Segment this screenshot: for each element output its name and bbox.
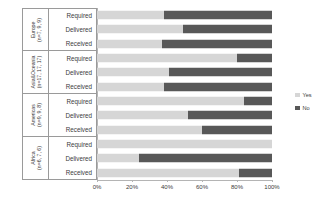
- bar-segment-no: [164, 11, 273, 20]
- bar-segment-yes: [97, 111, 188, 120]
- bar-segment-no: [237, 54, 272, 63]
- bar-row: [97, 137, 272, 151]
- bar-segment-no: [169, 68, 272, 77]
- bar-segment-no: [183, 25, 272, 34]
- group-label: Asia&Oceania: [29, 56, 35, 89]
- group-sample-size: (n=9, 9, 8): [36, 103, 42, 127]
- group-label: Africa: [29, 146, 35, 170]
- bar-segment-yes: [97, 125, 202, 134]
- x-axis-tick-label: 40%: [161, 184, 173, 190]
- stacked-bar: [97, 125, 272, 134]
- bar-row: [97, 80, 272, 94]
- bar-row: [97, 37, 272, 51]
- x-axis-tick-label: 0%: [93, 184, 102, 190]
- bar-segment-no: [139, 154, 272, 163]
- bar-segment-yes: [97, 97, 244, 106]
- stacked-bar: [97, 168, 272, 177]
- row-label-delivered: Delivered: [49, 65, 96, 79]
- category-group-americas: Americas(n=9, 9, 8)RequiredDeliveredRece…: [22, 94, 97, 137]
- bar-segment-yes: [97, 54, 237, 63]
- x-axis-tick: [132, 180, 133, 182]
- bar-group: [97, 51, 272, 94]
- legend-item-no[interactable]: No: [295, 105, 312, 111]
- group-label: Europe: [29, 18, 35, 42]
- x-axis-tick-label: 100%: [264, 184, 279, 190]
- bar-row: [97, 151, 272, 165]
- row-label-required: Required: [49, 94, 96, 108]
- bar-segment-yes: [97, 168, 239, 177]
- group-row-labels: RequiredDeliveredReceived: [49, 9, 97, 50]
- row-label-delivered: Delivered: [49, 23, 96, 37]
- row-label-received: Received: [49, 122, 96, 136]
- bar-segment-yes: [97, 154, 139, 163]
- group-row-labels: RequiredDeliveredReceived: [49, 137, 97, 179]
- group-name-cell: Asia&Oceania(n=17, 17, 17): [22, 51, 49, 93]
- x-axis-tick: [167, 180, 168, 182]
- bar-row: [97, 123, 272, 137]
- x-axis-tick: [97, 180, 98, 182]
- bar-row: [97, 8, 272, 22]
- x-axis-tick: [237, 180, 238, 182]
- stacked-bar: [97, 111, 272, 120]
- legend-label: Yes: [303, 92, 312, 98]
- x-axis-tick: [202, 180, 203, 182]
- bar-row: [97, 51, 272, 65]
- stacked-bar: [97, 97, 272, 106]
- stacked-bar: [97, 25, 272, 34]
- bar-row: [97, 108, 272, 122]
- bar-group: [97, 94, 272, 137]
- bar-group: [97, 137, 272, 180]
- stacked-bar: [97, 140, 272, 149]
- bar-segment-no: [239, 168, 272, 177]
- x-axis-tick-label: 60%: [196, 184, 208, 190]
- legend-item-yes[interactable]: Yes: [295, 92, 312, 98]
- group-name-cell: Europe(n=7, 9, 9): [22, 9, 49, 50]
- bar-segment-no: [164, 82, 273, 91]
- row-label-received: Received: [49, 165, 96, 179]
- group-row-labels: RequiredDeliveredReceived: [49, 51, 97, 93]
- bar-group: [97, 8, 272, 51]
- legend-swatch-icon: [295, 106, 300, 111]
- category-group-africa: Africa(n=6, 7, 6)RequiredDeliveredReceiv…: [22, 137, 97, 180]
- stacked-bar-chart: Europe(n=7, 9, 9)RequiredDeliveredReceiv…: [0, 0, 327, 214]
- bar-segment-yes: [97, 82, 164, 91]
- bar-segment-yes: [97, 68, 169, 77]
- row-label-required: Required: [49, 137, 96, 151]
- row-label-delivered: Delivered: [49, 108, 96, 122]
- bar-segment-yes: [97, 39, 162, 48]
- x-axis: 0%20%40%60%80%100%: [97, 180, 272, 196]
- group-sample-size: (n=17, 17, 17): [36, 56, 42, 89]
- row-label-required: Required: [49, 51, 96, 65]
- stacked-bar: [97, 39, 272, 48]
- bar-segment-yes: [97, 25, 183, 34]
- row-label-received: Received: [49, 79, 96, 93]
- x-axis-tick-label: 20%: [126, 184, 138, 190]
- bar-segment-yes: [97, 11, 164, 20]
- x-axis-tick-label: 80%: [231, 184, 243, 190]
- bar-row: [97, 94, 272, 108]
- group-sample-size: (n=7, 9, 9): [36, 18, 42, 42]
- stacked-bar: [97, 154, 272, 163]
- bar-segment-yes: [97, 140, 272, 149]
- bar-row: [97, 22, 272, 36]
- legend-swatch-icon: [295, 93, 300, 98]
- stacked-bar: [97, 68, 272, 77]
- category-group-europe: Europe(n=7, 9, 9)RequiredDeliveredReceiv…: [22, 8, 97, 51]
- legend-label: No: [303, 105, 310, 111]
- group-label: Americas: [29, 103, 35, 127]
- stacked-bar: [97, 82, 272, 91]
- category-axis-labels: Europe(n=7, 9, 9)RequiredDeliveredReceiv…: [22, 8, 97, 180]
- group-sample-size: (n=6, 7, 6): [36, 146, 42, 170]
- group-row-labels: RequiredDeliveredReceived: [49, 94, 97, 136]
- group-name-cell: Africa(n=6, 7, 6): [22, 137, 49, 179]
- group-name-cell: Americas(n=9, 9, 8): [22, 94, 49, 136]
- x-axis-line: [97, 180, 272, 181]
- row-label-required: Required: [49, 9, 96, 23]
- x-axis-tick: [272, 180, 273, 182]
- legend: YesNo: [295, 92, 312, 118]
- plot-area: [97, 8, 272, 180]
- row-label-delivered: Delivered: [49, 151, 96, 165]
- bar-segment-no: [188, 111, 272, 120]
- bar-row: [97, 166, 272, 180]
- bar-segment-no: [244, 97, 272, 106]
